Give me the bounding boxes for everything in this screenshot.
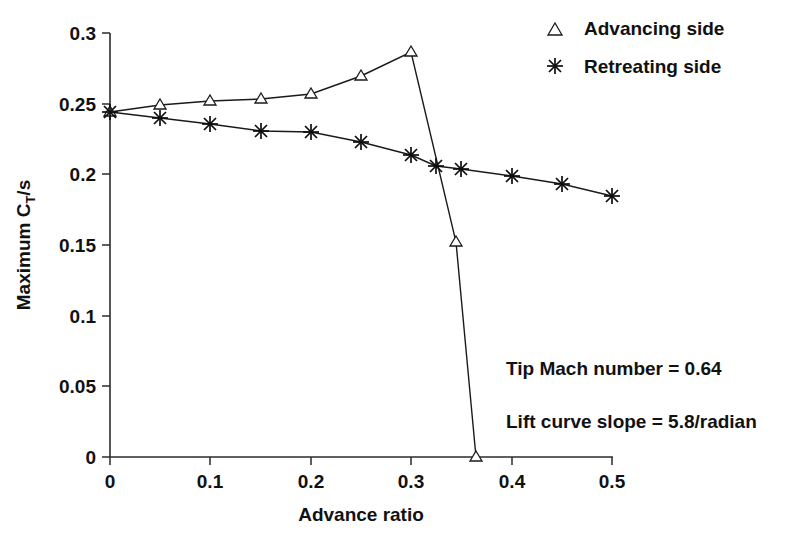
axis-group [110,33,613,457]
series-advancing-side [104,46,482,461]
y-tick-label-0.05: 0.05 [59,376,96,397]
y-tick-label-0.25: 0.25 [59,94,96,115]
chart-legend: Advancing side Retreating side [547,18,724,77]
retreating-point-5 [353,134,369,150]
advancing-point-6 [405,46,417,56]
y-tick-label-0.3: 0.3 [70,23,96,44]
y-axis-title-subscript: T [23,196,38,204]
retreating-point-7 [428,158,444,174]
retreating-side-line [110,112,612,196]
retreating-point-6 [403,147,419,163]
x-tick-label-0.3: 0.3 [398,471,424,492]
advancing-point-5 [355,70,367,80]
y-tick-label-0.1: 0.1 [70,306,97,327]
legend-item-advancing-side: Advancing side [548,18,724,39]
advancing-point-8 [470,451,482,461]
retreating-point-10 [554,176,570,192]
retreating-point-11 [604,188,620,204]
retreating-point-4 [303,124,319,140]
legend-label-retreating-side: Retreating side [584,56,721,77]
y-axis-title-main: Maximum C [13,203,34,310]
y-tick-labels: 0 0.05 0.1 0.15 0.2 0.25 0.3 [59,23,96,468]
chart-figure: 0 0.05 0.1 0.15 0.2 0.25 0.3 0 0.1 0.2 0… [0,0,785,544]
x-tick-labels: 0 0.1 0.2 0.3 0.4 0.5 [105,471,626,492]
x-tick-marks [110,457,612,465]
legend-asterisk-icon [547,58,563,74]
annotation-lift-curve-slope: Lift curve slope = 5.8/radian [506,411,757,432]
retreating-point-0 [102,104,118,120]
line-chart: 0 0.05 0.1 0.15 0.2 0.25 0.3 0 0.1 0.2 0… [0,0,785,544]
x-tick-label-0.1: 0.1 [197,471,224,492]
advancing-point-7 [450,236,462,246]
x-tick-label-0.4: 0.4 [499,471,526,492]
retreating-point-2 [202,116,218,132]
y-tick-label-0.2: 0.2 [70,164,96,185]
legend-triangle-icon [548,23,562,35]
annotation-tip-mach-number: Tip Mach number = 0.64 [506,358,722,379]
retreating-point-8 [453,161,469,177]
series-retreating-side [102,104,620,204]
chart-annotations: Tip Mach number = 0.64 Lift curve slope … [506,358,757,432]
advancing-point-2 [204,95,216,105]
y-tick-marks [102,33,110,457]
legend-label-advancing-side: Advancing side [584,18,724,39]
y-axis-title: Maximum CT/s [13,180,38,310]
retreating-point-1 [152,110,168,126]
x-tick-label-0.5: 0.5 [599,471,626,492]
y-tick-label-0.15: 0.15 [59,235,96,256]
y-tick-label-0: 0 [85,447,96,468]
x-tick-label-0: 0 [105,471,116,492]
retreating-point-3 [253,123,269,139]
y-axis-title-tail: /s [13,180,34,196]
x-tick-label-0.2: 0.2 [298,471,324,492]
x-axis-title: Advance ratio [298,504,424,525]
legend-item-retreating-side: Retreating side [547,56,721,77]
svg-text:Maximum CT/s: Maximum CT/s [13,180,38,310]
retreating-point-9 [504,168,520,184]
